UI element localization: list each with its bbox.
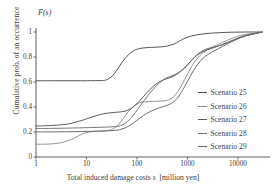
legend-line-swatch — [198, 146, 207, 147]
legend-item-scenario-28[interactable]: Scenario 28 — [198, 127, 247, 141]
y-tick-label-4: 0.8 — [8, 53, 32, 61]
legend-line-swatch — [198, 106, 207, 107]
legend-line-swatch — [198, 92, 207, 93]
legend-label: Scenario 25 — [211, 88, 247, 97]
y-tick-label-3: 0.6 — [8, 78, 32, 86]
x-tick-label-3: 1000 — [180, 160, 194, 168]
x-tick-label-0: 1 — [34, 160, 38, 168]
x-tick-label-2: 100 — [132, 160, 143, 168]
chart-figure: F(s) Cumulative prob. of an occurrence T… — [0, 0, 272, 194]
legend-label: Scenario 26 — [211, 102, 247, 111]
legend-line-swatch — [198, 133, 207, 134]
x-axis-title-main: Total induced damage costs — [67, 173, 151, 182]
y-axis-symbol-label: F(s) — [38, 8, 51, 17]
y-tick-label-2: 0.4 — [8, 103, 32, 111]
y-tick-label-1: 0.2 — [8, 128, 32, 136]
x-tick-label-4: 10000 — [229, 160, 247, 168]
x-axis-title-variable: s — [153, 173, 156, 182]
y-tick-label-0: 0 — [8, 153, 32, 161]
legend-item-scenario-27[interactable]: Scenario 27 — [198, 113, 247, 127]
y-tick-label-5: 1 — [8, 28, 32, 36]
legend-item-scenario-29[interactable]: Scenario 29 — [198, 140, 247, 154]
x-axis-title-unit: [million yen] — [159, 173, 199, 182]
legend-label: Scenario 27 — [211, 115, 247, 124]
legend-item-scenario-25[interactable]: Scenario 25 — [198, 86, 247, 100]
legend-label: Scenario 28 — [211, 129, 247, 138]
legend-line-swatch — [198, 119, 207, 120]
legend-label: Scenario 29 — [211, 142, 247, 151]
f-of-s-text: F(s) — [38, 8, 51, 17]
x-axis-title: Total induced damage costs s [million ye… — [28, 173, 238, 182]
chart-legend: Scenario 25Scenario 26Scenario 27Scenari… — [198, 86, 247, 154]
legend-item-scenario-26[interactable]: Scenario 26 — [198, 100, 247, 114]
x-tick-label-1: 10 — [83, 160, 90, 168]
series-line-scenario-25 — [36, 32, 262, 81]
